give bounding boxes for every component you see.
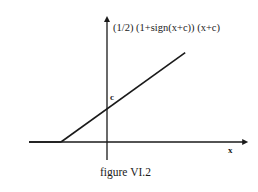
x-axis-label: x xyxy=(228,145,233,155)
series-line-ramp-segment xyxy=(61,53,185,142)
y-axis-arrowhead xyxy=(104,16,110,22)
x-axis-arrowhead xyxy=(242,139,248,145)
figure: (1/2) (1+sign(x+c)) (x+c) c x figure VI.… xyxy=(0,0,258,192)
function-label: (1/2) (1+sign(x+c)) (x+c) xyxy=(113,22,220,34)
figure-caption: figure VI.2 xyxy=(100,166,151,179)
intercept-label: c xyxy=(110,92,114,102)
